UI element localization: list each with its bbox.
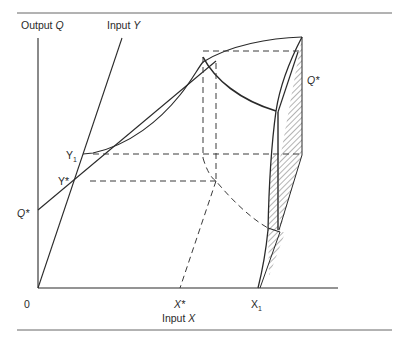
origin-label: 0	[24, 299, 30, 310]
dashed-lower-curve	[203, 158, 268, 228]
input-y-ray-label: Input Y	[107, 20, 140, 31]
input-y-ray	[38, 38, 122, 288]
x1-label: X1	[251, 299, 262, 312]
production-diagram	[0, 0, 396, 341]
input-x-axis-label: Input X	[162, 313, 195, 324]
production-curve-upper	[83, 37, 302, 154]
q-star-left-label: Q*	[17, 208, 29, 219]
dashed-x-star-ray	[180, 181, 216, 288]
y1-label: Y1	[66, 150, 77, 163]
isoquant-curve	[203, 57, 276, 111]
q-star-right-label: Q*	[307, 75, 319, 86]
hatched-region-upper	[278, 37, 302, 230]
output-q-axis-label: Output Q	[21, 20, 64, 31]
x-star-label: X*	[174, 299, 185, 310]
y-star-label: Y*	[58, 176, 69, 187]
